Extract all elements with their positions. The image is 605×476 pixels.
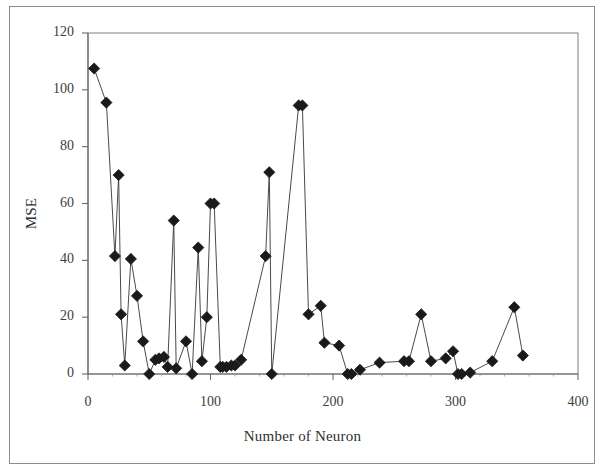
figure-container: Number of Neuron MSE 0204060801001200100… bbox=[0, 0, 605, 476]
data-point-marker bbox=[187, 368, 198, 379]
data-point-marker bbox=[201, 312, 212, 323]
data-point-marker bbox=[168, 215, 179, 226]
data-point-marker bbox=[509, 302, 520, 313]
x-axis-title: Number of Neuron bbox=[0, 428, 605, 445]
x-tick-label: 300 bbox=[436, 394, 476, 410]
data-point-marker bbox=[101, 97, 112, 108]
data-point-marker bbox=[319, 337, 330, 348]
y-tick-label: 100 bbox=[40, 81, 74, 97]
data-point-marker bbox=[260, 250, 271, 261]
data-point-marker bbox=[264, 167, 275, 178]
data-point-marker bbox=[334, 340, 345, 351]
data-point-marker bbox=[180, 336, 191, 347]
chart-plot-area: Number of Neuron MSE 0204060801001200100… bbox=[0, 0, 605, 476]
series-line bbox=[94, 69, 523, 374]
data-point-marker bbox=[115, 309, 126, 320]
data-point-marker bbox=[266, 368, 277, 379]
data-point-marker bbox=[119, 360, 130, 371]
data-point-marker bbox=[303, 309, 314, 320]
data-point-marker bbox=[416, 309, 427, 320]
data-point-marker bbox=[144, 368, 155, 379]
data-point-marker bbox=[517, 350, 528, 361]
x-tick-label: 400 bbox=[558, 394, 598, 410]
data-point-marker bbox=[487, 356, 498, 367]
y-tick-label: 0 bbox=[40, 365, 74, 381]
data-point-marker bbox=[196, 356, 207, 367]
data-point-marker bbox=[109, 250, 120, 261]
y-tick-label: 40 bbox=[40, 251, 74, 267]
x-tick-label: 200 bbox=[313, 394, 353, 410]
data-point-marker bbox=[125, 253, 136, 264]
data-point-marker bbox=[138, 336, 149, 347]
y-axis-title: MSE bbox=[23, 174, 40, 254]
x-tick-label: 100 bbox=[191, 394, 231, 410]
plot-frame bbox=[88, 33, 578, 374]
y-tick-label: 20 bbox=[40, 308, 74, 324]
data-point-marker bbox=[374, 357, 385, 368]
data-point-marker bbox=[465, 367, 476, 378]
y-tick-label: 120 bbox=[40, 24, 74, 40]
data-point-marker bbox=[113, 169, 124, 180]
data-point-marker bbox=[425, 356, 436, 367]
data-point-marker bbox=[89, 63, 100, 74]
data-point-marker bbox=[315, 300, 326, 311]
data-point-marker bbox=[171, 363, 182, 374]
data-point-marker bbox=[131, 290, 142, 301]
data-series bbox=[89, 63, 529, 380]
y-tick-label: 60 bbox=[40, 195, 74, 211]
data-point-marker bbox=[193, 242, 204, 253]
y-tick-label: 80 bbox=[40, 138, 74, 154]
x-tick-label: 0 bbox=[68, 394, 108, 410]
